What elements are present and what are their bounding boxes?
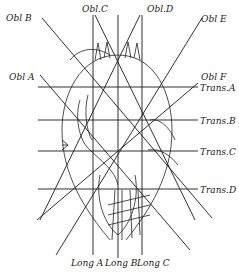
label-obl-b: Obl B bbox=[6, 13, 32, 23]
label-long-c: Long C bbox=[136, 258, 170, 268]
label-trans-d: Trans.D bbox=[200, 185, 236, 195]
label-obl-c: Obl.C bbox=[82, 4, 108, 14]
grid-diagram: Obl B Obl.C Obl.D Obl E Obl A Obl F Tran… bbox=[0, 0, 239, 279]
specimen-drawing bbox=[62, 42, 178, 240]
obl-a-line bbox=[40, 75, 190, 250]
label-long-b: Long B bbox=[104, 258, 138, 268]
label-long-a: Long A bbox=[70, 258, 104, 268]
label-obl-a: Obl A bbox=[9, 72, 35, 82]
obl-f-line bbox=[37, 83, 198, 220]
label-trans-a: Trans.A bbox=[200, 83, 236, 93]
label-obl-f: Obl F bbox=[201, 72, 227, 82]
label-obl-d: Obl.D bbox=[147, 4, 173, 14]
label-trans-b: Trans.B bbox=[200, 116, 236, 126]
label-obl-e: Obl E bbox=[201, 14, 227, 24]
label-trans-c: Trans.C bbox=[200, 147, 236, 157]
